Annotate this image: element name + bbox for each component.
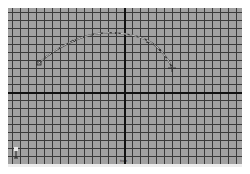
curve-end-marker[interactable]	[168, 65, 176, 72]
view-name-label: front	[120, 159, 127, 163]
axis-gizmo-icon	[12, 145, 22, 159]
edit-point-marker[interactable]	[115, 32, 117, 34]
ep-curve[interactable]	[39, 33, 172, 68]
edit-point-marker[interactable]	[146, 42, 149, 43]
curve-layer[interactable]	[8, 8, 242, 164]
viewport-bottom-border	[8, 164, 242, 167]
edit-point-marker[interactable]	[159, 49, 161, 51]
viewport-front[interactable]: front	[8, 8, 242, 164]
